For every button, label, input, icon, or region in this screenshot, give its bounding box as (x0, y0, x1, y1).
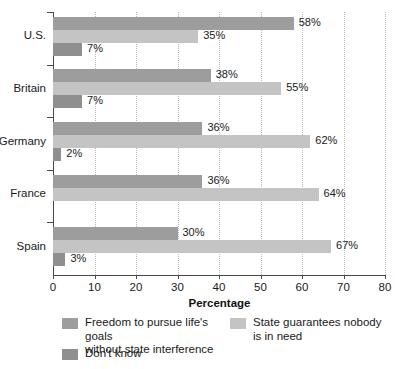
y-tick-3 (47, 170, 53, 171)
bar-spain-s0[interactable] (53, 227, 178, 240)
category-label-france: France (0, 187, 46, 199)
bar-row: 7% (53, 43, 385, 56)
bar-value-label: 64% (319, 187, 346, 200)
x-tick-80 (385, 275, 386, 279)
category-label-germany: Germany (0, 135, 46, 147)
bar-row: 7% (53, 95, 385, 108)
x-tick-label-70: 70 (337, 281, 350, 293)
bar-row: 3% (53, 253, 385, 266)
x-tick-label-30: 30 (171, 281, 184, 293)
bar-value-label: 67% (331, 239, 358, 252)
bar-chart: 58%35%7%38%55%7%36%62%2%36%64%30%67%3% U… (0, 0, 407, 369)
x-tick-10 (95, 275, 96, 279)
chart-legend: Freedom to pursue life's goals without s… (0, 316, 407, 369)
bar-spain-s2[interactable] (53, 253, 65, 266)
bar-value-label: 58% (294, 16, 321, 29)
bar-value-label: 36% (202, 121, 229, 134)
bar-spain-s1[interactable] (53, 240, 331, 253)
bar-value-label: 55% (281, 81, 308, 94)
legend-label-state-guarantees: State guarantees nobody is in need (253, 316, 382, 343)
y-tick-0 (47, 12, 53, 13)
x-tick-20 (136, 275, 137, 279)
x-tick-label-20: 20 (130, 281, 143, 293)
bar-group-britain: 38%55%7% (53, 69, 385, 108)
bar-value-label: 36% (202, 174, 229, 187)
x-axis-title: Percentage (53, 297, 386, 309)
legend-swatch-dont-know (62, 349, 78, 360)
bar-us-s1[interactable] (53, 30, 198, 43)
bar-germany-s0[interactable] (53, 122, 202, 135)
bar-value-label: 38% (211, 68, 238, 81)
x-tick-0 (53, 275, 54, 279)
bar-germany-s2[interactable] (53, 148, 61, 161)
category-label-spain: Spain (0, 240, 46, 252)
bar-value-label: 2% (61, 147, 82, 160)
bar-value-label: 35% (198, 29, 225, 42)
bar-row: 64% (53, 188, 385, 201)
bar-value-label: 62% (310, 134, 337, 147)
bar-france-s0[interactable] (53, 175, 202, 188)
bar-us-s0[interactable] (53, 17, 294, 30)
bar-row: 38% (53, 69, 385, 82)
bar-row: 67% (53, 240, 385, 253)
x-tick-60 (302, 275, 303, 279)
bar-value-label: 7% (82, 42, 103, 55)
bar-group-france: 36%64% (53, 175, 385, 214)
x-tick-label-10: 10 (88, 281, 101, 293)
y-tick-4 (47, 222, 53, 223)
category-label-britain: Britain (0, 82, 46, 94)
bar-row (53, 201, 385, 214)
x-tick-label-60: 60 (296, 281, 309, 293)
bar-row: 62% (53, 135, 385, 148)
bar-value-label: 30% (178, 226, 205, 239)
bar-row: 2% (53, 148, 385, 161)
bar-group-spain: 30%67%3% (53, 227, 385, 266)
x-tick-70 (344, 275, 345, 279)
legend-item-state-guarantees[interactable]: State guarantees nobody is in need (230, 316, 405, 343)
bar-value-label: 3% (65, 252, 86, 265)
y-tick-2 (47, 117, 53, 118)
x-tick-50 (261, 275, 262, 279)
bar-germany-s1[interactable] (53, 135, 310, 148)
x-tick-30 (178, 275, 179, 279)
x-tick-40 (219, 275, 220, 279)
legend-swatch-state-guarantees (230, 318, 246, 329)
legend-swatch-freedom (62, 318, 78, 329)
bar-france-s1[interactable] (53, 188, 319, 201)
x-tick-label-40: 40 (213, 281, 226, 293)
bar-us-s2[interactable] (53, 43, 82, 56)
x-tick-label-80: 80 (379, 281, 392, 293)
x-tick-label-0: 0 (50, 281, 56, 293)
bar-value-label: 7% (82, 94, 103, 107)
legend-item-dont-know[interactable]: Don't know (62, 347, 237, 361)
category-label-us: U.S. (0, 29, 46, 41)
bar-group-us: 58%35%7% (53, 17, 385, 56)
bar-britain-s0[interactable] (53, 69, 211, 82)
bar-group-germany: 36%62%2% (53, 122, 385, 161)
x-tick-label-50: 50 (254, 281, 267, 293)
bar-britain-s2[interactable] (53, 95, 82, 108)
legend-label-dont-know: Don't know (85, 347, 142, 361)
gridline-80 (385, 12, 386, 275)
y-tick-1 (47, 65, 53, 66)
